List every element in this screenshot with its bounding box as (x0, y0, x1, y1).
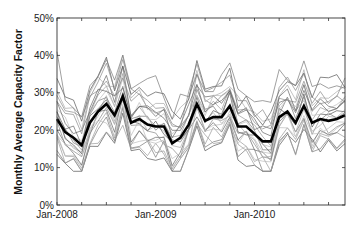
y-tick-label: 30% (34, 87, 54, 98)
y-tick-label: 40% (34, 50, 54, 61)
x-tick-label: Jan-2008 (36, 209, 78, 220)
capacity-factor-chart: 0%10%20%30%40%50% Jan-2008Jan-2009Jan-20… (0, 0, 363, 229)
individual-series-line (57, 124, 345, 172)
y-tick-label: 20% (34, 125, 54, 136)
x-tick-label: Jan-2010 (234, 209, 276, 220)
y-tick-label: 10% (34, 162, 54, 173)
x-tick-label: Jan-2009 (135, 209, 177, 220)
y-tick-label: 50% (34, 13, 54, 24)
y-axis-title: Monthly Average Capacity Factor (12, 29, 24, 195)
